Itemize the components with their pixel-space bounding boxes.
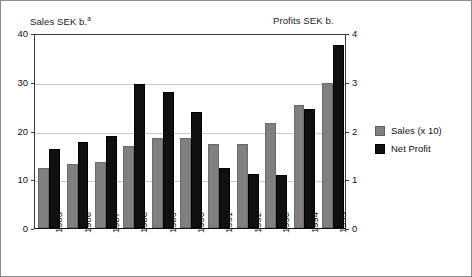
bar-sales-1987 [95,162,106,228]
x-axis-label-1990: 1990 [195,212,206,233]
bar-net-profit-1989 [163,92,174,228]
bar-net-profit-1995 [333,45,344,228]
bar-sales-1994 [294,105,305,228]
right-axis-tick-label: 4 [352,28,357,39]
x-axis-label-1995: 1995 [337,212,348,233]
right-axis-tick-label: 2 [352,126,357,137]
bar-sales-1991 [208,144,219,228]
legend-label-sales: Sales (x 10) [391,125,442,136]
left-axis-tick-label: 0 [6,223,28,234]
left-axis-tickmark [31,229,34,230]
bar-sales-1990 [180,138,191,228]
x-axis-label-1987: 1987 [110,212,121,233]
left-axis-title-superscript: a [87,15,91,22]
left-axis-title: Sales SEK b.a [30,15,91,27]
x-axis-label-1993: 1993 [280,212,291,233]
right-axis-tickmark [346,180,349,181]
left-axis-tick-label: 20 [6,126,28,137]
left-axis-tick-label: 40 [6,28,28,39]
x-axis-label-1989: 1989 [167,212,178,233]
x-axis-label-1994: 1994 [309,212,320,233]
left-axis-tickmark [31,83,34,84]
legend-swatch-net-profit-icon [375,144,385,154]
left-axis-title-text: Sales SEK b. [30,16,87,27]
legend-item-net-profit: Net Profit [375,143,442,154]
x-axis-label-1986: 1986 [82,212,93,233]
right-axis-title: Profits SEK b. [273,15,334,26]
x-axis-label-1991: 1991 [223,212,234,233]
bar-net-profit-1994 [304,109,315,228]
bar-group-container [35,35,345,228]
right-axis-tickmark [346,132,349,133]
bar-net-profit-1990 [191,112,202,228]
bar-sales-1995 [322,83,333,228]
right-axis-tick-label: 1 [352,174,357,185]
chart-frame: Sales SEK b.a Profits SEK b. 010203040 0… [0,0,472,277]
bar-sales-1986 [67,164,78,228]
bar-sales-1993 [265,123,276,228]
left-axis-tick-label: 30 [6,77,28,88]
bar-sales-1992 [237,144,248,228]
right-axis-tickmark [346,83,349,84]
plot-area [34,34,346,229]
legend: Sales (x 10) Net Profit [375,125,442,161]
bar-sales-1988 [123,146,134,228]
bar-net-profit-1988 [134,84,145,228]
left-axis-tickmark [31,34,34,35]
legend-swatch-sales-icon [375,126,385,136]
bar-sales-1989 [152,138,163,228]
right-axis-tickmark [346,34,349,35]
x-axis-label-1985: 1985 [53,212,64,233]
right-axis-tick-label: 0 [352,223,357,234]
legend-item-sales: Sales (x 10) [375,125,442,136]
x-axis-label-1988: 1988 [138,212,149,233]
legend-label-net-profit: Net Profit [391,143,431,154]
right-axis-tick-label: 3 [352,77,357,88]
bar-sales-1985 [38,168,49,228]
left-axis-tickmark [31,132,34,133]
left-axis-tickmark [31,180,34,181]
left-axis-tick-label: 10 [6,174,28,185]
x-axis-label-1992: 1992 [252,212,263,233]
